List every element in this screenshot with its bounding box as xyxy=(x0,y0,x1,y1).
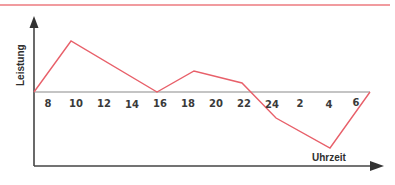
x-tick: 2 xyxy=(297,98,304,109)
x-tick: 4 xyxy=(326,99,333,110)
x-tick: 18 xyxy=(181,98,195,109)
x-tick: 22 xyxy=(237,98,251,109)
x-tick: 20 xyxy=(209,98,223,109)
x-tick-labels: 8 10 12 14 16 18 20 22 24 2 4 6 xyxy=(45,97,360,110)
x-tick: 14 xyxy=(125,99,139,110)
x-tick: 10 xyxy=(69,98,83,109)
x-axis-arrow-icon xyxy=(370,161,384,171)
x-tick: 24 xyxy=(265,99,279,110)
x-tick: 6 xyxy=(353,97,360,108)
x-axis-label: Uhrzeit xyxy=(312,152,347,163)
y-axis-label: Leistung xyxy=(15,44,26,86)
y-axis-arrow-icon xyxy=(30,16,39,28)
x-tick: 12 xyxy=(97,98,111,109)
x-tick: 8 xyxy=(45,98,52,109)
chart: Leistung Uhrzeit 8 10 12 14 16 18 20 22 … xyxy=(0,0,395,185)
x-tick: 16 xyxy=(153,98,167,109)
performance-line xyxy=(34,41,370,148)
